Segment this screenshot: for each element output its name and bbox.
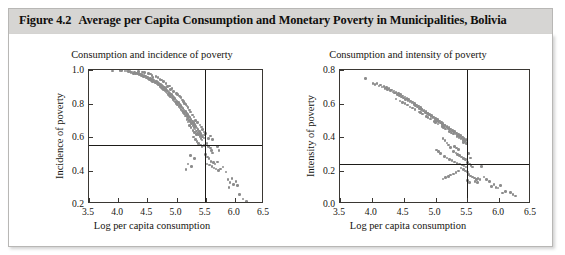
y-axis-tick-label: 0.6: [60, 131, 84, 142]
data-point: [232, 183, 235, 186]
data-point: [457, 170, 460, 173]
data-point: [447, 175, 450, 178]
data-point: [211, 138, 214, 141]
data-point: [452, 173, 455, 176]
data-point: [172, 90, 175, 93]
x-axis-tick: [436, 198, 437, 202]
data-point: [462, 141, 465, 144]
x-axis-tick-label: 6.0: [228, 206, 240, 217]
data-point: [185, 168, 188, 171]
data-point: [165, 82, 168, 85]
x-axis-tick-label: 4.0: [111, 206, 123, 217]
data-point: [444, 176, 447, 179]
data-point: [188, 124, 191, 127]
data-point: [476, 181, 479, 184]
x-axis-tick: [499, 198, 500, 202]
data-point: [184, 115, 187, 118]
y-axis-tick: [89, 70, 93, 71]
x-axis-tick: [147, 198, 148, 202]
scatter-plot-incidence: [88, 69, 263, 203]
data-point: [364, 77, 367, 80]
x-axis-tick-label: 3.5: [82, 206, 94, 217]
y-axis-tick-label: 1.0: [60, 64, 84, 75]
data-point: [236, 184, 239, 187]
y-axis-tick-label: 0.0: [311, 198, 335, 209]
data-point: [449, 146, 452, 149]
data-point: [218, 149, 221, 152]
horizontal-reference-line: [340, 164, 529, 166]
x-axis-tick-label: 5.0: [170, 206, 182, 217]
scatter-plot-intensity: [339, 69, 530, 203]
x-axis-tick: [177, 198, 178, 202]
y-axis-tick: [340, 137, 344, 138]
x-axis-tick: [467, 198, 468, 202]
data-point: [195, 133, 198, 136]
data-point: [235, 180, 238, 183]
chart-subtitle-intensity: Consumption and intensity of poverty: [277, 49, 539, 60]
x-axis-tick-label: 4.5: [140, 206, 152, 217]
y-axis-tick-label: 0.2: [60, 198, 84, 209]
x-axis-tick-label: 4.5: [397, 206, 409, 217]
data-point: [248, 202, 251, 203]
data-point: [147, 72, 150, 75]
data-point: [437, 123, 440, 126]
data-point: [216, 161, 219, 164]
data-point: [421, 113, 424, 116]
figure-container: Figure 4.2Average per Capita Consumption…: [8, 8, 553, 247]
x-axis-tick-label: 6.5: [524, 206, 536, 217]
y-axis-tick: [89, 171, 93, 172]
y-axis-tick: [89, 137, 93, 138]
data-point: [137, 70, 140, 73]
x-axis-tick: [235, 198, 236, 202]
data-point: [479, 178, 482, 181]
data-point: [419, 111, 422, 114]
data-point: [404, 102, 407, 105]
data-point: [228, 186, 231, 189]
x-axis-tick: [206, 198, 207, 202]
x-axis-tick-label: 6.0: [492, 206, 504, 217]
data-point: [189, 111, 192, 114]
data-point: [189, 154, 192, 157]
y-axis-tick-label: 0.6: [311, 97, 335, 108]
x-axis-tick-label: 3.5: [333, 206, 345, 217]
data-point: [501, 192, 504, 195]
data-point: [437, 150, 440, 153]
data-point: [457, 148, 460, 151]
data-point: [193, 157, 196, 160]
x-axis-title-intensity: Log per capita consumption: [277, 220, 539, 231]
vertical-reference-line: [205, 70, 207, 202]
data-point: [427, 116, 430, 119]
y-axis-tick-label: 0.2: [311, 164, 335, 175]
data-point: [448, 158, 451, 161]
data-point: [499, 184, 502, 187]
x-axis-tick-label: 5.5: [199, 206, 211, 217]
data-point: [231, 177, 234, 180]
data-point: [514, 195, 517, 198]
data-point: [238, 193, 241, 196]
data-point: [434, 121, 437, 124]
chart-panel-incidence: Consumption and incidence of poverty Log…: [23, 34, 281, 247]
chart-panel-intensity: Consumption and intensity of poverty Log…: [277, 34, 539, 247]
data-point: [207, 137, 210, 140]
data-point: [469, 157, 472, 160]
figure-title-text: Average per Capita Consumption and Monet…: [78, 13, 506, 27]
figure-title-band: Figure 4.2Average per Capita Consumption…: [8, 8, 553, 34]
y-axis-tick: [340, 70, 344, 71]
figure-title: Figure 4.2Average per Capita Consumption…: [19, 13, 507, 28]
y-axis-tick-label: 0.4: [60, 164, 84, 175]
y-axis-tick: [340, 171, 344, 172]
x-axis-tick: [372, 198, 373, 202]
x-axis-tick: [118, 198, 119, 202]
y-axis-tick: [340, 104, 344, 105]
data-point: [488, 180, 491, 183]
chart-subtitle-incidence: Consumption and incidence of poverty: [23, 49, 281, 60]
y-axis-tick: [89, 104, 93, 105]
data-point: [120, 69, 123, 72]
x-axis-tick-label: 5.5: [460, 206, 472, 217]
data-point: [471, 166, 474, 169]
x-axis-tick: [89, 198, 90, 202]
data-point: [450, 132, 453, 135]
data-point: [151, 74, 154, 77]
y-axis-tick-label: 0.8: [60, 97, 84, 108]
data-point: [229, 181, 232, 184]
